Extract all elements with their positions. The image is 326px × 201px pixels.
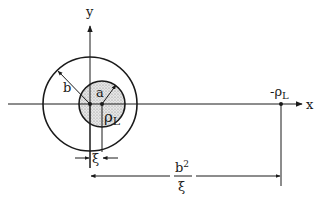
diagram-canvas: y x b a ρL -ρL ξ b2 ξ (0, 0, 326, 201)
y-axis-label: y (85, 4, 94, 19)
image-charge-dot (279, 102, 283, 106)
image-distance-numerator: b2 (175, 159, 189, 175)
image-rho-subscript: L (282, 90, 289, 101)
numerator-exponent: 2 (183, 159, 189, 169)
x-axis-label: x (306, 97, 314, 112)
rho-symbol: ρ (104, 108, 113, 126)
radius-a-label: a (96, 85, 104, 100)
image-charge-label: -ρL (270, 84, 289, 101)
numerator-b: b (175, 160, 183, 175)
image-distance-denominator: ξ (178, 179, 185, 194)
radius-b-label: b (63, 80, 71, 95)
line-charge-dot (100, 102, 104, 106)
image-rho-symbol: -ρ (270, 84, 282, 99)
rho-subscript: L (113, 115, 121, 128)
xi-label: ξ (92, 151, 99, 166)
origin-dot (88, 102, 92, 106)
